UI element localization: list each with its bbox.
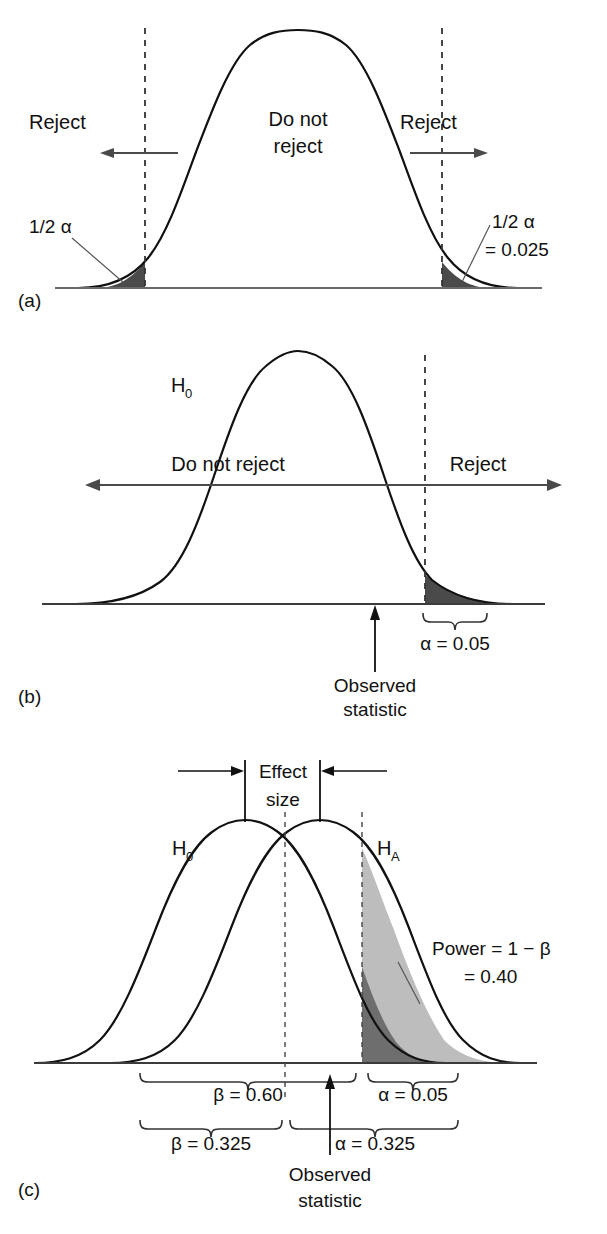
- svg-text:H: H: [377, 837, 391, 859]
- panel-a-do-not-reject-line1: Do not: [269, 108, 328, 130]
- panel-c-h0-label: H 0: [172, 837, 193, 864]
- panel-b-h0-label: H 0: [171, 374, 192, 401]
- panel-c-power-line1: Power = 1 − β: [432, 938, 551, 959]
- panel-c-beta-lower-label: β = 0.325: [171, 1133, 251, 1154]
- panel-b-do-not-reject-label: Do not reject: [171, 453, 285, 475]
- svg-text:A: A: [391, 849, 400, 864]
- panel-c: Effect size H 0 H A Power = 1 − β = 0.40…: [18, 760, 551, 1211]
- svg-text:0: 0: [185, 386, 192, 401]
- statistics-figure: Reject Reject Do not reject 1/2 α 1/2 α …: [0, 0, 607, 1234]
- panel-a-reject-right-label: Reject: [400, 111, 457, 133]
- panel-a-half-alpha-left-label: 1/2 α: [29, 216, 72, 237]
- panel-a-leader-left: [72, 238, 124, 283]
- panel-b-observed-line2: statistic: [343, 699, 406, 720]
- panel-c-power-line2: = 0.40: [464, 966, 517, 987]
- panel-c-observed-arrow: [325, 1074, 335, 1155]
- panel-c-alpha-lower-label: α = 0.325: [335, 1133, 415, 1154]
- panel-c-observed-line1: Observed: [289, 1164, 371, 1185]
- panel-a-label: (a): [18, 290, 41, 311]
- panel-b-alpha-brace: [423, 613, 487, 630]
- svg-text:H: H: [171, 374, 185, 396]
- panel-b-alpha-tail-shade: [425, 575, 488, 604]
- panel-c-label: (c): [18, 1179, 40, 1200]
- panel-c-observed-line2: statistic: [298, 1190, 361, 1211]
- panel-a-reject-left-label: Reject: [29, 111, 86, 133]
- panel-b-reject-label: Reject: [450, 453, 507, 475]
- panel-b-observed-arrow: [370, 605, 380, 672]
- panel-c-ha-label: H A: [377, 837, 400, 864]
- panel-a-reject-arrow-right: [410, 148, 488, 158]
- panel-a-normal-curve: [78, 30, 518, 288]
- panel-b-decision-axis: [85, 479, 562, 491]
- panel-b-alpha-value-label: α = 0.05: [420, 633, 490, 654]
- panel-b-observed-line1: Observed: [334, 675, 416, 696]
- panel-c-alpha-upper-label: α = 0.05: [378, 1084, 448, 1105]
- panel-a-half-alpha-right-label: 1/2 α: [492, 211, 535, 232]
- panel-b: H 0 Do not reject Reject α = 0.05 Observ…: [18, 351, 562, 720]
- panel-a-half-alpha-right-value: = 0.025: [485, 239, 549, 260]
- panel-a-reject-arrow-left: [100, 148, 178, 158]
- panel-c-effect-size-line2: size: [266, 789, 300, 810]
- panel-a: Reject Reject Do not reject 1/2 α 1/2 α …: [18, 28, 549, 311]
- panel-a-left-tail-shade: [95, 262, 145, 288]
- panel-c-effect-size-line1: Effect: [259, 761, 308, 782]
- panel-a-do-not-reject-line2: reject: [274, 135, 323, 157]
- panel-b-label: (b): [18, 686, 41, 707]
- svg-text:0: 0: [186, 849, 193, 864]
- panel-b-normal-curve: [75, 351, 512, 604]
- svg-text:H: H: [172, 837, 186, 859]
- panel-c-beta-upper-label: β = 0.60: [213, 1084, 283, 1105]
